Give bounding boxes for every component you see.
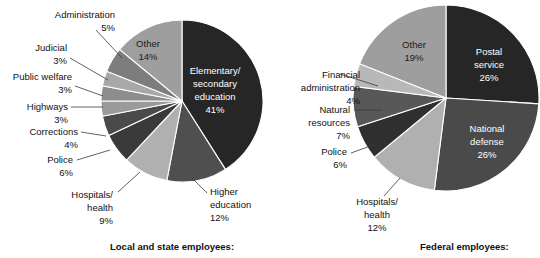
leader-line xyxy=(77,150,110,160)
leader-line xyxy=(96,30,122,58)
slice-value-text: 9% xyxy=(99,215,113,226)
slice-name-text: Postal xyxy=(476,46,502,57)
slice-name-text: Higher xyxy=(210,186,238,197)
slice-name-text: health xyxy=(364,209,390,220)
slice-name-text: defense xyxy=(470,136,504,147)
slice-name-text: education xyxy=(210,199,251,210)
slice-name-text: Other xyxy=(136,38,160,49)
pie-local-state: Elementary/ secondary education 41%Highe… xyxy=(13,9,263,226)
caption-local-state: Local and state employees: xyxy=(110,241,234,252)
pie-chart-figure: Elementary/ secondary education 41%Highe… xyxy=(0,0,540,258)
slice-label: Public welfare3% xyxy=(13,71,73,95)
slice-name-text: health xyxy=(87,202,113,213)
slice-name-text: Financial xyxy=(322,69,360,80)
slice-label: Naturalresources7% xyxy=(308,104,350,141)
slice-value-text: 6% xyxy=(333,159,347,170)
leader-line xyxy=(118,172,140,192)
slice-value-text: 26% xyxy=(479,72,499,83)
slice-name-text: Hospitals/ xyxy=(71,189,113,200)
caption-federal: Federal employees: xyxy=(420,241,509,252)
slice-label: Corrections4% xyxy=(29,126,78,150)
slice-name-text: Public welfare xyxy=(13,71,72,82)
pie-charts-svg: Elementary/ secondary education 41%Highe… xyxy=(0,0,540,258)
leader-line xyxy=(75,86,103,96)
slice-label: Hospitals/health9% xyxy=(71,189,113,226)
slice-value-text: 12% xyxy=(367,222,387,233)
slice-label: Judicial3% xyxy=(35,42,67,66)
leader-line xyxy=(384,178,400,196)
slice-name-text: administration xyxy=(301,82,360,93)
slice-label: Hospitals/health12% xyxy=(356,196,398,233)
slice-name-text: education xyxy=(194,91,235,102)
slice-value-text: 14% xyxy=(138,51,158,62)
leader-line xyxy=(70,58,108,80)
slice-label: Highereducation12% xyxy=(210,186,251,223)
slice-label: Highways3% xyxy=(27,101,69,125)
slice-name-text: Highways xyxy=(27,101,68,112)
slice-value-text: 19% xyxy=(404,52,424,63)
slice-label: Administration5% xyxy=(55,9,116,33)
slice-value-text: 3% xyxy=(54,114,68,125)
slice-value-text: 5% xyxy=(101,22,115,33)
slice-label: Police6% xyxy=(47,154,73,178)
slice-name-text: Administration xyxy=(55,9,115,20)
slice-value-text: 7% xyxy=(336,130,350,141)
slice-name-text: Police xyxy=(321,146,347,157)
slice-value-text: 4% xyxy=(64,139,78,150)
slice-value-text: 3% xyxy=(58,84,72,95)
slice-value-text: 26% xyxy=(477,149,497,160)
slice-name-text: National xyxy=(470,123,505,134)
slice-name-text: Hospitals/ xyxy=(356,196,398,207)
slice-name-text: Other xyxy=(402,39,426,50)
slice-name-text: Corrections xyxy=(29,126,78,137)
slice-name-text: resources xyxy=(308,117,350,128)
slice-name-text: Judicial xyxy=(35,42,67,53)
slice-value-text: 12% xyxy=(210,212,230,223)
slice-value-text: 4% xyxy=(346,95,360,106)
slice-value-text: 6% xyxy=(59,167,73,178)
slice-name-text: service xyxy=(474,59,504,70)
slice-name-text: Elementary/ xyxy=(190,65,241,76)
leader-line xyxy=(81,132,106,136)
pie-federal: Postal service 26%National defense 26%Ho… xyxy=(301,5,539,233)
slice-label: Financialadministration4% xyxy=(301,69,361,106)
slice-name-text: Police xyxy=(47,154,73,165)
slice-value-text: 3% xyxy=(53,55,67,66)
slice-label: Police6% xyxy=(321,146,347,170)
slice-name-text: secondary xyxy=(193,78,237,89)
slice-value-text: 41% xyxy=(205,104,225,115)
